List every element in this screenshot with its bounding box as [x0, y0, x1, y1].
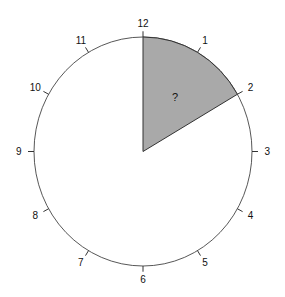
tick-10: [43, 91, 48, 94]
hour-label-10: 10: [30, 82, 42, 93]
hour-label-3: 3: [264, 146, 270, 157]
tick-4: [237, 209, 242, 212]
tick-7: [86, 251, 89, 256]
sector-label: ?: [172, 91, 178, 103]
tick-8: [43, 209, 48, 212]
hour-label-2: 2: [248, 82, 254, 93]
hour-label-8: 8: [33, 210, 39, 221]
tick-1: [198, 47, 201, 52]
clock-diagram: 121234567891011 ?: [0, 0, 285, 297]
hour-label-9: 9: [16, 146, 22, 157]
tick-2: [237, 91, 242, 94]
hour-label-4: 4: [248, 210, 254, 221]
tick-11: [86, 47, 89, 52]
hour-label-6: 6: [140, 274, 146, 285]
hour-label-5: 5: [202, 257, 208, 268]
hour-label-12: 12: [137, 18, 149, 29]
tick-5: [198, 251, 201, 256]
hour-label-11: 11: [76, 35, 87, 46]
hour-label-7: 7: [78, 257, 84, 268]
hour-label-1: 1: [202, 35, 208, 46]
